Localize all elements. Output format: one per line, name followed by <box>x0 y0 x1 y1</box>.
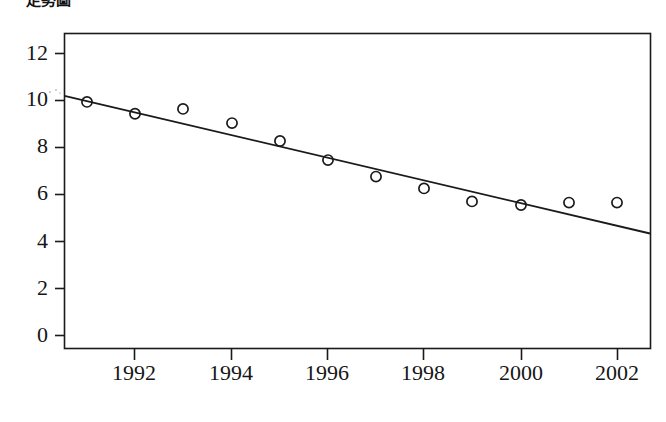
trend-line <box>65 96 651 234</box>
data-point-markers <box>82 97 622 210</box>
data-point <box>564 198 574 208</box>
data-point <box>371 172 381 182</box>
data-point <box>227 118 237 128</box>
data-point <box>323 155 333 165</box>
data-point <box>178 104 188 114</box>
data-point <box>467 196 477 206</box>
data-point <box>275 136 285 146</box>
plot-frame <box>65 34 651 349</box>
data-point <box>612 198 622 208</box>
plot-canvas <box>0 0 666 422</box>
data-point <box>419 183 429 193</box>
data-point <box>516 200 526 210</box>
x-axis-ticks <box>135 349 618 361</box>
chart-figure: 走勢圖 12 10 8 6 4 2 0 1992 1994 1996 1998 … <box>0 0 666 422</box>
scan-artifacts <box>49 89 61 94</box>
y-axis-ticks <box>55 54 65 336</box>
